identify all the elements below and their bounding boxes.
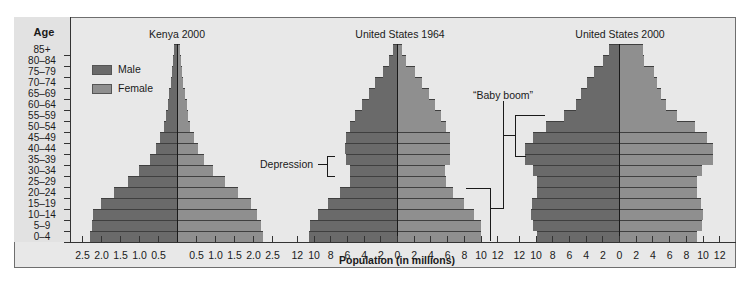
age-tick [64, 110, 71, 111]
bar-male [525, 143, 619, 154]
x-tick [703, 236, 704, 242]
bar-female [619, 187, 697, 198]
depression-leader-line [318, 164, 327, 165]
bar-female [619, 88, 661, 99]
legend-swatch-male [92, 65, 112, 75]
bar-male [128, 176, 177, 187]
x-tick-label: 2.5 [265, 249, 280, 261]
bar-male [531, 209, 619, 220]
bar-male [369, 88, 397, 99]
bar-male [383, 66, 397, 77]
bar-male [389, 55, 397, 66]
age-tick [64, 121, 71, 122]
x-tick-label: 12 [714, 249, 726, 261]
baby-boom-bracket-2000 [515, 115, 516, 157]
bar-male [362, 99, 397, 110]
bar-female [177, 99, 187, 110]
x-tick-label: 2 [600, 249, 606, 261]
bar-female [397, 132, 450, 143]
bar-male [537, 231, 619, 242]
bar-female [397, 154, 450, 165]
bar-male [328, 198, 397, 209]
bar-male [594, 66, 619, 77]
bar-female [397, 220, 481, 231]
bar-male [350, 121, 397, 132]
age-label: 5–9 [18, 221, 66, 231]
x-tick [253, 236, 254, 242]
bar-female [619, 154, 713, 165]
age-tick [64, 220, 71, 221]
age-tick [64, 55, 71, 56]
age-axis-title: Age [20, 26, 68, 38]
x-tick-label: 10 [530, 249, 542, 261]
x-axis-line [70, 242, 736, 243]
bar-male [346, 132, 397, 143]
panel-title-us-1964: United States 1964 [355, 28, 444, 40]
legend-item-male: Male [92, 63, 141, 75]
bar-female [177, 132, 194, 143]
x-tick [414, 236, 415, 242]
bar-female [397, 209, 474, 220]
x-tick [669, 236, 670, 242]
x-tick-label: 10 [308, 249, 320, 261]
bar-male [310, 220, 397, 231]
baby-boom-link-1964 [490, 208, 504, 209]
age-label: 70–74 [18, 78, 66, 88]
x-tick-label: 12 [291, 249, 303, 261]
bar-male [92, 220, 178, 231]
x-tick-label: 8 [461, 249, 467, 261]
bar-male [318, 209, 397, 220]
bar-female [397, 66, 415, 77]
bar-male [532, 198, 619, 209]
bar-female [619, 77, 657, 88]
x-tick-label: 1.5 [113, 249, 128, 261]
depression-bracket [327, 156, 328, 176]
x-tick-label: 1.5 [227, 249, 242, 261]
age-tick [64, 66, 71, 67]
x-tick [619, 236, 620, 242]
x-tick-label: 0.5 [189, 249, 204, 261]
age-tick [64, 187, 71, 188]
bar-male [160, 132, 177, 143]
age-tick [64, 209, 71, 210]
x-tick [158, 236, 159, 242]
depression-bracket-top [327, 156, 335, 157]
bar-male [166, 110, 177, 121]
bar-male [340, 187, 397, 198]
x-tick [330, 236, 331, 242]
bar-female [619, 132, 707, 143]
age-tick [64, 143, 71, 144]
bar-female [397, 198, 464, 209]
x-tick [272, 236, 273, 242]
age-tick [64, 176, 71, 177]
x-tick [686, 236, 687, 242]
bar-male [350, 176, 397, 187]
age-tick [64, 165, 71, 166]
bar-female [177, 154, 204, 165]
age-tick [64, 242, 71, 243]
age-label: 0–4 [18, 232, 66, 242]
bar-male [537, 176, 619, 187]
x-tick [602, 236, 603, 242]
bar-female [619, 209, 703, 220]
bar-female [619, 176, 697, 187]
age-label: 60–64 [18, 100, 66, 110]
age-tick [64, 77, 71, 78]
bar-male [603, 55, 619, 66]
x-tick [347, 236, 348, 242]
x-tick-label: 10 [697, 249, 709, 261]
baby-boom-bracket-1964-top [466, 188, 491, 189]
baby-boom-bracket-1964 [490, 188, 491, 241]
age-tick [64, 99, 71, 100]
x-tick [552, 236, 553, 242]
x-tick-label: 12 [513, 249, 525, 261]
x-tick [481, 236, 482, 242]
baby-boom-bracket-2000-top [515, 115, 545, 116]
bar-male [345, 143, 397, 154]
age-label: 30–34 [18, 166, 66, 176]
x-tick [215, 236, 216, 242]
bar-male [169, 88, 177, 99]
x-tick [569, 236, 570, 242]
x-tick [719, 236, 720, 242]
bar-male [546, 121, 619, 132]
